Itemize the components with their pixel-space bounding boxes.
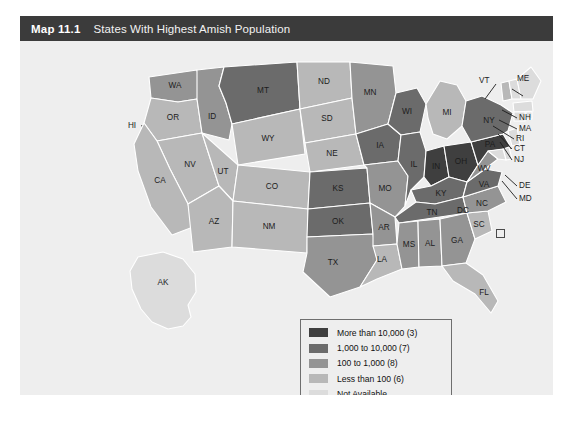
legend-item[interactable]: More than 10,000 (3) (309, 325, 451, 340)
legend-item[interactable]: Less than 100 (6) (309, 371, 451, 386)
map-legend: More than 10,000 (3) 1,000 to 10,000 (7)… (300, 319, 452, 395)
state-label-OK: OK (332, 217, 344, 226)
legend-label: 1,000 to 10,000 (7) (337, 343, 410, 353)
state-label-MD: MD (519, 194, 532, 203)
legend-swatch (309, 344, 328, 353)
legend-swatch (309, 374, 328, 383)
state-label-AL: AL (425, 239, 435, 248)
state-label-NJ: NJ (514, 155, 524, 164)
state-label-HI: HI (128, 121, 136, 130)
legend-label: 100 to 1,000 (8) (337, 358, 398, 368)
figure-title: States With Highest Amish Population (94, 23, 291, 35)
map-panel: AK HI WA OR ID MT WY ND SD NE NV (20, 41, 553, 395)
state-label-CO: CO (266, 182, 278, 191)
state-label-PA: PA (485, 140, 496, 149)
legend-item[interactable]: 100 to 1,000 (8) (309, 356, 451, 371)
state-label-MI: MI (442, 108, 451, 117)
figure-header-bar: Map 11.1 States With Highest Amish Popul… (20, 16, 553, 41)
state-label-NH: NH (519, 113, 531, 122)
state-label-TN: TN (427, 208, 438, 217)
us-choropleth-map: AK HI WA OR ID MT WY ND SD NE NV (20, 41, 553, 395)
state-label-NE: NE (326, 149, 338, 158)
state-AK[interactable] (130, 252, 196, 329)
legend-label: More than 10,000 (3) (337, 328, 417, 338)
state-label-KY: KY (436, 189, 447, 198)
state-label-IN: IN (432, 162, 440, 171)
state-label-IA: IA (376, 141, 384, 150)
state-label-AZ: AZ (209, 217, 219, 226)
state-label-FL: FL (479, 288, 489, 297)
state-label-VA: VA (479, 180, 490, 189)
state-label-OH: OH (455, 157, 467, 166)
state-label-MT: MT (257, 86, 269, 95)
dc-swatch (496, 229, 505, 238)
legend-swatch (309, 390, 328, 395)
state-label-ME: ME (517, 74, 530, 83)
state-label-IL: IL (411, 160, 418, 169)
state-label-GA: GA (451, 236, 463, 245)
state-label-MA: MA (519, 124, 532, 133)
legend-swatch (309, 359, 328, 368)
state-label-NY: NY (483, 116, 495, 125)
state-label-SD: SD (321, 114, 332, 123)
state-label-RI: RI (516, 134, 524, 143)
state-label-WY: WY (261, 134, 275, 143)
state-label-WI: WI (402, 107, 412, 116)
state-label-LA: LA (377, 255, 388, 264)
state-label-MN: MN (364, 88, 377, 97)
state-label-DE: DE (519, 181, 531, 190)
state-label-DC: DC (457, 206, 469, 215)
legend-label: Less than 100 (6) (337, 374, 404, 384)
state-label-TX: TX (328, 258, 339, 267)
state-label-KS: KS (333, 184, 344, 193)
state-label-ND: ND (318, 77, 330, 86)
leader-DE (505, 175, 517, 186)
state-label-MO: MO (378, 184, 391, 193)
state-label-WA: WA (169, 81, 182, 90)
state-label-NC: NC (476, 199, 488, 208)
state-MA[interactable] (513, 101, 533, 112)
state-label-MS: MS (403, 240, 416, 249)
legend-item[interactable]: 1,000 to 10,000 (7) (309, 340, 451, 355)
state-label-ID: ID (208, 112, 216, 121)
figure-number: Map 11.1 (31, 23, 81, 35)
state-label-CA: CA (154, 176, 166, 185)
state-label-NV: NV (184, 160, 196, 169)
legend-swatch (309, 328, 328, 337)
legend-item[interactable]: Not Available (309, 387, 451, 395)
state-label-UT: UT (218, 167, 229, 176)
leader-VT (485, 84, 496, 99)
state-label-VT: VT (479, 76, 489, 85)
legend-label: Not Available (337, 389, 387, 395)
state-label-NM: NM (263, 222, 276, 231)
map-figure: Map 11.1 States With Highest Amish Popul… (20, 16, 553, 395)
state-TX[interactable] (303, 234, 377, 297)
state-FL[interactable] (442, 263, 498, 313)
state-label-AR: AR (378, 223, 389, 232)
state-label-WV: WV (477, 164, 491, 173)
state-label-AK: AK (158, 278, 169, 287)
state-label-CT: CT (514, 144, 525, 153)
state-label-SC: SC (473, 220, 484, 229)
state-label-OR: OR (167, 113, 179, 122)
